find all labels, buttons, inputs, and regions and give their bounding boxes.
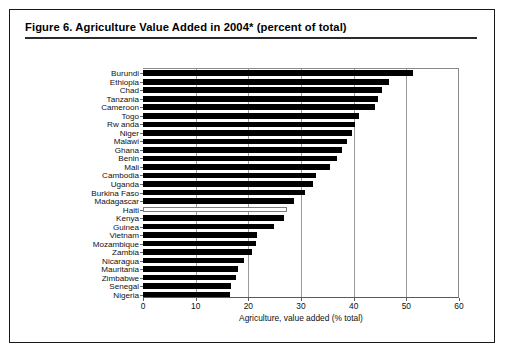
bar-rows: BurundiEthiopiaChadTanzaniaCameroonTogoR… xyxy=(143,69,458,297)
bar xyxy=(143,190,305,196)
bar xyxy=(143,130,352,136)
chart-row: Kenya xyxy=(143,214,458,223)
chart-row: Cameroon xyxy=(143,103,458,112)
chart-row: Ghana xyxy=(143,146,458,155)
figure-frame: Figure 6. Agriculture Value Added in 200… xyxy=(9,9,495,343)
bar xyxy=(143,292,230,298)
chart-row: Mauritania xyxy=(143,265,458,274)
x-axis-tick-label: 50 xyxy=(402,301,411,311)
chart-row: Burundi xyxy=(143,69,458,78)
bar xyxy=(143,87,382,93)
bar xyxy=(143,181,313,187)
bar xyxy=(143,258,244,264)
bar xyxy=(143,215,284,221)
chart-row: Ethiopia xyxy=(143,78,458,87)
chart-row: Mozambique xyxy=(143,239,458,248)
bar xyxy=(143,283,231,289)
x-axis-tick-label: 10 xyxy=(191,301,200,311)
chart-row: Uganda xyxy=(143,180,458,189)
x-axis: 0102030405060 xyxy=(143,298,459,312)
bar xyxy=(143,232,257,238)
chart-plot-area: BurundiEthiopiaChadTanzaniaCameroonTogoR… xyxy=(143,68,459,298)
x-axis-tick-label: 30 xyxy=(296,301,305,311)
bar xyxy=(143,266,238,272)
chart-row: Togo xyxy=(143,112,458,121)
bar xyxy=(143,139,347,145)
x-axis-tick-label: 0 xyxy=(141,301,146,311)
chart-row: Chad xyxy=(143,86,458,95)
bar xyxy=(143,249,252,255)
bar xyxy=(143,147,342,153)
bar xyxy=(143,224,274,230)
title-divider xyxy=(25,37,477,39)
x-axis-tick-label: 20 xyxy=(244,301,253,311)
chart-row: Mali xyxy=(143,163,458,172)
chart-row: Cambodia xyxy=(143,171,458,180)
bar xyxy=(143,275,236,281)
bar xyxy=(143,96,378,102)
chart-row: Malawi xyxy=(143,137,458,146)
chart-row: Zimbabwe xyxy=(143,273,458,282)
bar xyxy=(143,79,389,85)
chart-row: Haiti xyxy=(143,205,458,214)
bar xyxy=(143,241,256,247)
x-axis-tick-label: 60 xyxy=(454,301,463,311)
bar xyxy=(143,70,413,76)
chart-row: Burkina Faso xyxy=(143,188,458,197)
bar xyxy=(143,122,355,128)
bar xyxy=(143,198,294,204)
chart-row: Zambia xyxy=(143,248,458,257)
page-title: Figure 6. Agriculture Value Added in 200… xyxy=(25,20,479,34)
bar xyxy=(143,173,316,179)
title-block: Figure 6. Agriculture Value Added in 200… xyxy=(25,20,479,39)
x-axis-tick-label: 40 xyxy=(349,301,358,311)
chart-row: Vietnam xyxy=(143,231,458,240)
bar xyxy=(143,164,330,170)
chart-row: Niger xyxy=(143,129,458,138)
x-axis-label: Agriculture, value added (% total) xyxy=(143,313,459,323)
chart-row: Tanzania xyxy=(143,95,458,104)
bar xyxy=(143,104,375,110)
chart-row: Rw anda xyxy=(143,120,458,129)
chart-row: Madagascar xyxy=(143,197,458,206)
chart-row: Benin xyxy=(143,154,458,163)
bar xyxy=(143,207,287,213)
chart-row: Senegal xyxy=(143,282,458,291)
chart-row: Guinea xyxy=(143,222,458,231)
bar xyxy=(143,113,359,119)
bar xyxy=(143,156,337,162)
chart-row: Nicaragua xyxy=(143,256,458,265)
y-axis-tick-label: Nigeria xyxy=(113,290,139,299)
